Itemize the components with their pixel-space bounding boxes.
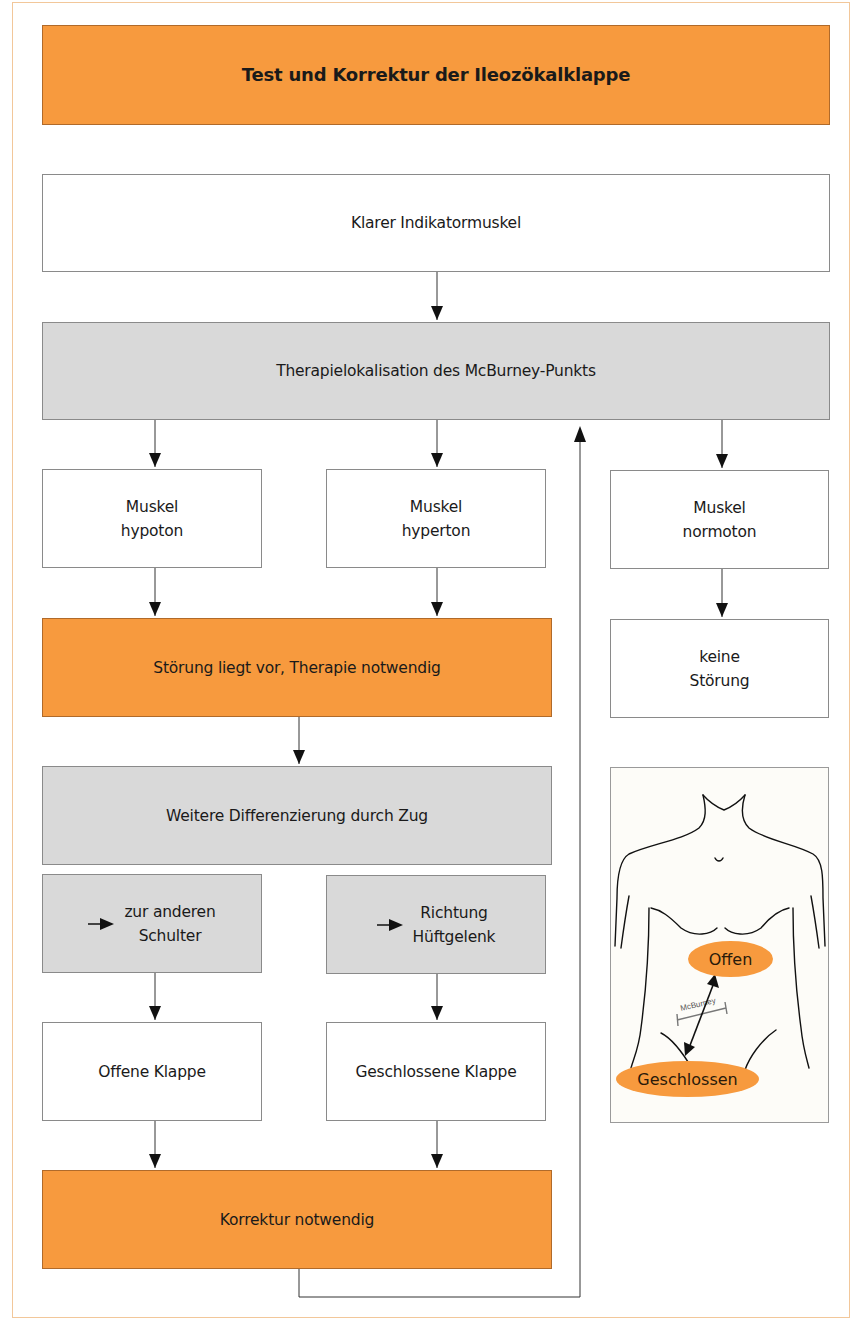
open-label-pill: Offen (688, 941, 773, 977)
open-label: Offen (709, 950, 753, 969)
closed-label-pill: Geschlossen (616, 1061, 759, 1097)
torso-illustration: McBurney Offen Geschlossen (610, 767, 829, 1123)
mcburney-label: McBurney (679, 996, 716, 1013)
closed-label: Geschlossen (637, 1070, 737, 1089)
